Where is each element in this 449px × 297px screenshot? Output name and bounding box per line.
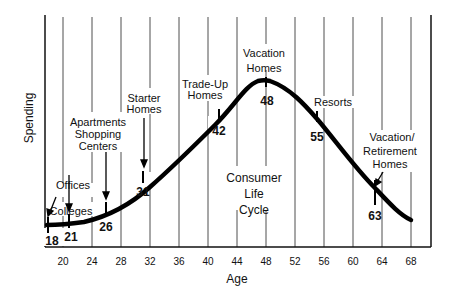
x-tick: 32 xyxy=(144,256,156,267)
x-tick: 44 xyxy=(231,256,243,267)
label-vacation-retirement-2: Retirement xyxy=(363,145,417,157)
label-apartments: Apartments xyxy=(70,116,127,128)
x-tick: 68 xyxy=(405,256,417,267)
chart-title-line2: Life xyxy=(244,187,264,201)
age-26: 26 xyxy=(99,220,113,234)
age-31: 31 xyxy=(136,185,150,199)
x-tick: 56 xyxy=(318,256,330,267)
label-vacation: Vacation xyxy=(243,47,285,59)
age-55: 55 xyxy=(310,130,324,144)
label-centers: Centers xyxy=(79,140,118,152)
label-vacation-homes: Homes xyxy=(247,62,282,74)
x-tick: 64 xyxy=(376,256,388,267)
x-tick: 48 xyxy=(260,256,272,267)
age-42: 42 xyxy=(212,124,226,138)
age-48: 48 xyxy=(260,94,274,108)
label-resorts: Resorts xyxy=(314,96,352,108)
x-tick: 40 xyxy=(202,256,214,267)
age-18: 18 xyxy=(45,234,59,248)
chart-title-line3: Cycle xyxy=(239,203,269,217)
label-vacation-retirement-3: Homes xyxy=(373,158,408,170)
x-tick: 28 xyxy=(115,256,127,267)
label-offices: Offices xyxy=(56,179,91,191)
x-tick: 52 xyxy=(289,256,301,267)
x-tick: 24 xyxy=(86,256,98,267)
label-vacation-retirement-1: Vacation/ xyxy=(369,131,415,143)
consumer-life-cycle-chart: Offices Colleges Apartments Shopping Cen… xyxy=(0,0,449,297)
label-colleges: Colleges xyxy=(50,205,93,217)
label-shopping: Shopping xyxy=(75,128,122,140)
x-axis-title: Age xyxy=(226,272,248,286)
y-axis-title: Spending xyxy=(22,93,36,144)
x-tick-labels: 20 24 28 32 36 40 44 48 52 56 60 64 68 xyxy=(57,256,417,267)
x-tick: 60 xyxy=(347,256,359,267)
chart-title-line1: Consumer xyxy=(226,171,281,185)
age-63: 63 xyxy=(368,209,382,223)
label-tradeup-homes: Homes xyxy=(188,89,223,101)
x-tick: 20 xyxy=(57,256,69,267)
label-starter-homes: Homes xyxy=(127,103,162,115)
age-21: 21 xyxy=(64,230,78,244)
x-tick: 36 xyxy=(173,256,185,267)
